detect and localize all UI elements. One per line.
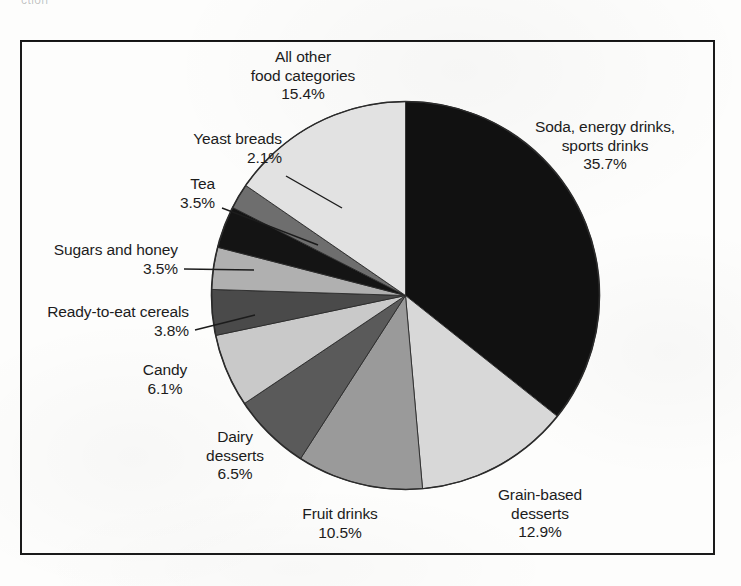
label-all-other-food-categories: All other food categories 15.4% [203,48,403,104]
label-percent: 10.5% [270,524,410,543]
label-yeast-breads: Yeast breads 2.1% [96,130,282,167]
label-percent: 2.1% [96,149,282,168]
label-line1: Fruit drinks [302,505,377,522]
label-percent: 6.5% [175,465,295,484]
label-percent: 12.9% [460,523,620,542]
label-percent: 3.8% [0,322,189,341]
label-line2: desserts [511,505,569,522]
label-dairy-desserts: Dairy desserts 6.5% [175,428,295,484]
label-candy: Candy 6.1% [110,361,220,398]
label-sugars-and-honey: Sugars and honey 3.5% [0,241,178,278]
label-line1: Soda, energy drinks, [535,118,675,135]
label-line2: food categories [251,67,356,84]
label-percent: 3.5% [40,194,215,213]
label-line2: sports drinks [562,137,649,154]
label-ready-to-eat-cereals: Ready-to-eat cereals 3.8% [0,303,189,340]
label-line1: Yeast breads [193,130,282,147]
label-line1: All other [275,48,331,65]
label-line1: Sugars and honey [54,241,178,258]
label-percent: 6.1% [110,380,220,399]
label-line1: Candy [143,361,187,378]
label-percent: 15.4% [203,85,403,104]
label-grain-based-desserts: Grain-based desserts 12.9% [460,486,620,542]
label-line1: Dairy [217,428,253,445]
cropped-caption-remnant: ction [21,0,48,7]
label-tea: Tea 3.5% [40,175,215,212]
label-percent: 35.7% [500,155,710,174]
label-percent: 3.5% [0,260,178,279]
label-soda-energy-sports-drinks: Soda, energy drinks, sports drinks 35.7% [500,118,710,174]
label-line1: Ready-to-eat cereals [47,303,189,320]
label-fruit-drinks: Fruit drinks 10.5% [270,505,410,542]
label-line1: Tea [190,175,215,192]
label-line1: Grain-based [498,486,582,503]
label-line2: desserts [206,447,264,464]
